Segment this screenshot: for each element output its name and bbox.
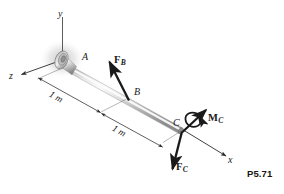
moment-c-subscript: C [218, 116, 223, 125]
force-c-subscript: C [183, 165, 188, 174]
extension-line-b [101, 99, 127, 112]
extension-line-c [163, 131, 181, 143]
moment-c-symbol: M [208, 112, 218, 123]
x-axis-line [180, 128, 226, 156]
force-b-label: FB [114, 55, 126, 66]
z-axis-label: z [9, 71, 13, 81]
point-a-label: A [82, 52, 88, 62]
point-c-label: C [173, 118, 180, 128]
mechanics-diagram [0, 0, 284, 194]
moment-c-label: MC [208, 113, 223, 124]
bar-highlight [73, 69, 182, 131]
force-b-subscript: B [121, 58, 126, 67]
point-b-label: B [134, 87, 140, 97]
x-axis-label: x [228, 155, 232, 165]
force-c-label: FC [176, 162, 188, 173]
y-axis-label: y [58, 9, 62, 19]
force-c-symbol: F [176, 161, 182, 172]
figure-container: y x z A B C 1 m 1 m FB FC MC P5.71 [0, 0, 284, 194]
force-b-symbol: F [114, 54, 120, 65]
moment-c-curl [185, 113, 201, 127]
figure-number: P5.71 [247, 169, 272, 179]
